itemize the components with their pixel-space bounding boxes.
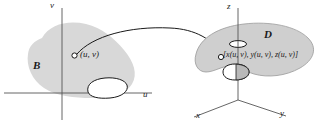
axis-label-u: u: [143, 90, 148, 99]
point-label-image: [x(u, v), y(u, v), z(u, v)]: [223, 51, 298, 59]
axis-label-v: v: [50, 1, 54, 10]
region-label-b: B: [33, 60, 40, 71]
point-label-uv: (u, v): [80, 50, 99, 59]
uv-point-marker: [72, 53, 77, 58]
axis-label-y: y: [280, 109, 284, 118]
axis-label-x: x: [196, 111, 200, 120]
axis-label-z: z: [227, 2, 231, 11]
figure-canvas: [0, 0, 323, 128]
surface-label-d: D: [264, 29, 272, 40]
xyz-space-group: [194, 8, 314, 117]
region-b-inner-loop: [88, 78, 128, 98]
x-axis: [194, 100, 238, 117]
parametric-surface-figure: v u B (u, v) z D x y [x(u, v), y(u, v), …: [0, 0, 323, 128]
uv-plane-group: [4, 8, 152, 120]
y-axis: [238, 100, 286, 116]
